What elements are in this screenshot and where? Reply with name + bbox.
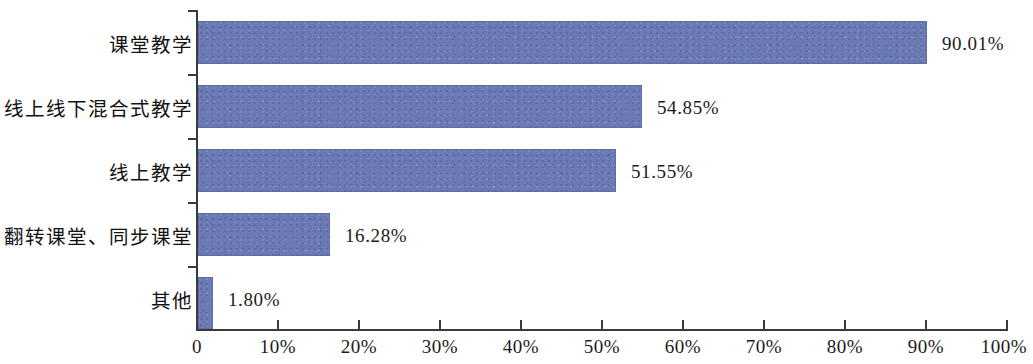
x-axis-tick-label: 90% <box>908 336 944 358</box>
y-axis-tick <box>188 266 197 268</box>
y-axis-tick <box>188 202 197 204</box>
category-label: 线上线下混合式教学 <box>4 100 193 120</box>
x-axis-tick-label: 80% <box>827 336 863 358</box>
plot-area: 0 10% 20% 30% 40% 50% 60% 70% 80% 90% 10… <box>0 0 1033 364</box>
y-axis-tick <box>188 10 197 12</box>
bar-课堂教学[interactable] <box>198 21 927 64</box>
x-axis-tick-label: 40% <box>503 336 539 358</box>
x-axis-tick-label: 20% <box>341 336 377 358</box>
category-label: 其他 <box>151 292 193 312</box>
bar-线上线下混合式教学[interactable] <box>198 85 642 128</box>
x-axis-tick <box>925 320 927 329</box>
bar-chart: 0 10% 20% 30% 40% 50% 60% 70% 80% 90% 10… <box>0 0 1033 364</box>
y-axis-tick <box>188 74 197 76</box>
bar-翻转课堂同步课堂[interactable] <box>198 213 330 256</box>
x-axis-tick <box>1006 320 1008 329</box>
x-axis-tick-label: 10% <box>260 336 296 358</box>
bar-value-label: 16.28% <box>345 225 407 247</box>
y-axis-tick <box>188 138 197 140</box>
category-label: 课堂教学 <box>109 36 193 56</box>
x-axis-tick <box>682 320 684 329</box>
bar-value-label: 90.01% <box>942 33 1004 55</box>
x-axis-tick-label: 30% <box>422 336 458 358</box>
x-axis-tick-label: 0 <box>192 336 202 358</box>
x-axis-tick <box>601 320 603 329</box>
bar-value-label: 54.85% <box>657 97 719 119</box>
bar-value-label: 51.55% <box>631 161 693 183</box>
bar-其他[interactable] <box>198 277 213 329</box>
x-axis-tick <box>844 320 846 329</box>
x-axis-tick-label: 70% <box>746 336 782 358</box>
x-axis-tick <box>439 320 441 329</box>
x-axis-tick-label: 60% <box>665 336 701 358</box>
x-axis-tick <box>520 320 522 329</box>
bar-value-label: 1.80% <box>228 289 280 311</box>
category-label: 翻转课堂、同步课堂 <box>4 228 193 248</box>
x-axis-tick-label: 100% <box>981 336 1027 358</box>
x-axis-line <box>196 329 1008 331</box>
x-axis-tick <box>763 320 765 329</box>
x-axis-tick <box>358 320 360 329</box>
category-label: 线上教学 <box>109 164 193 184</box>
x-axis-tick <box>277 320 279 329</box>
x-axis-tick-label: 50% <box>584 336 620 358</box>
bar-线上教学[interactable] <box>198 149 616 192</box>
